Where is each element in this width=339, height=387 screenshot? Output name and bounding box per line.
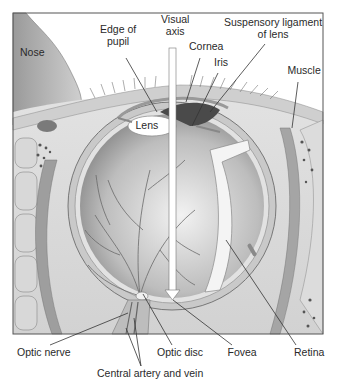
illustration-frame: [0, 0, 339, 334]
label-optic-disc: Optic disc: [157, 346, 203, 358]
eye-diagram: NoseEdge ofpupilVisualaxisCorneaIrisSusp…: [0, 0, 339, 387]
label-cornea: Cornea: [189, 40, 223, 52]
label-retina: Retina: [294, 346, 324, 358]
label-muscle: Muscle: [288, 64, 321, 76]
label-edge-of-pupil: Edge ofpupil: [100, 23, 136, 47]
label-central-artery-vein: Central artery and vein: [97, 367, 203, 379]
label-optic-nerve: Optic nerve: [17, 346, 71, 358]
label-visual-axis: Visualaxis: [161, 13, 189, 37]
label-nose: Nose: [20, 46, 45, 58]
label-lens: Lens: [136, 119, 159, 131]
label-suspensory-ligament: Suspensory ligamentof lens: [224, 16, 322, 40]
label-fovea: Fovea: [228, 346, 257, 358]
label-iris: Iris: [214, 56, 228, 68]
eye-illustration: [0, 0, 339, 387]
